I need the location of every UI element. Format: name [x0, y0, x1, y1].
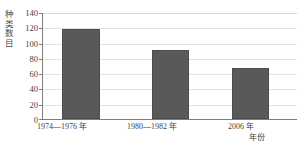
y-tick-label: 40: [8, 85, 38, 94]
bar-1980-1982: [152, 50, 189, 119]
y-axis-line: [42, 13, 43, 120]
x-tick-label-2: 1980—1982 年: [113, 122, 191, 132]
y-axis-tick-labels: 140 120 100 80 60 40 20 0: [0, 13, 38, 120]
y-tick-label: 60: [8, 70, 38, 79]
y-tick-label: 80: [8, 55, 38, 64]
x-tick-label-3: 2006 年: [202, 122, 280, 132]
y-tick-label: 140: [8, 9, 38, 18]
x-axis-line: [42, 119, 297, 120]
x-tick-label-1: 1974—1976 年: [23, 122, 101, 132]
gridline-140: [43, 13, 297, 14]
y-tick-label: 100: [8, 40, 38, 49]
plot-area: [42, 13, 297, 120]
y-tick-label: 20: [8, 101, 38, 110]
bar-1974-1976: [62, 29, 100, 119]
bar-chart: 种 类 数 目 140 120 100 80 60 40 20 0: [0, 0, 307, 150]
x-axis-title: 年份: [249, 133, 265, 142]
y-tick-label: 120: [8, 24, 38, 33]
bar-2006: [232, 68, 269, 120]
